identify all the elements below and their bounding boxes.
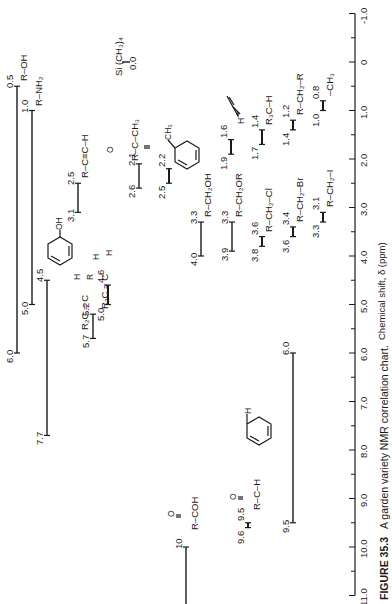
- range-high-label: 6.0: [5, 350, 15, 363]
- group-name-label: R–CH₂–Br: [295, 178, 305, 222]
- axis-tick-label: 2.0: [359, 154, 369, 167]
- range-low-label: 10: [174, 538, 184, 549]
- tms-value-label: 0.0: [128, 57, 138, 70]
- range-high-label: 3.6: [281, 239, 291, 252]
- range-low-label: 1.6: [219, 124, 229, 137]
- range-high-label: 5.0: [20, 301, 30, 314]
- ketone-label: R–C–CH₃: [130, 119, 140, 161]
- acid-label: R–COH: [190, 497, 200, 530]
- figure-caption: FIGURE 35.3A garden variety NMR correlat…: [378, 345, 390, 600]
- range-low-label: 0.8: [311, 86, 321, 99]
- range-high-label: 1.7: [250, 147, 260, 160]
- group-name-label: R–NH₂: [34, 76, 44, 106]
- axis-tick-label: 8.0: [359, 445, 369, 458]
- group-name-label: R–C≡C–H: [80, 135, 90, 179]
- range-low-label: 1.0: [20, 99, 30, 112]
- group-name-label: R–CH₂–Cl: [264, 188, 274, 232]
- range-high-label: 9.6: [236, 530, 246, 543]
- alkene2-label: R₂C = C: [100, 274, 110, 309]
- range-high-label: 9.5: [281, 520, 291, 533]
- range-low-label: 3.3: [189, 211, 199, 224]
- range-low-label: 2.2: [157, 153, 167, 166]
- alkene2-h-label: H: [105, 250, 114, 256]
- range-high-label: 3.1: [66, 209, 76, 222]
- axis-tick-label: 7.0: [359, 396, 369, 409]
- axis-tick-label: 5.0: [359, 299, 369, 312]
- alkene1-h-label: H: [73, 274, 82, 280]
- figure-caption-text: A garden variety NMR correlation chart.: [378, 345, 390, 529]
- range-high-label: 1.0: [311, 113, 321, 126]
- group-name-label: R–OH: [19, 55, 29, 81]
- range-low-label: 6.0: [281, 342, 291, 355]
- range-low-label: 0.5: [5, 75, 15, 88]
- group-name-label: –CH₃: [325, 73, 335, 96]
- alkene1-r-label: R: [86, 274, 95, 280]
- range-low-label: 2.5: [66, 172, 76, 185]
- allyl-structure-icon: [227, 96, 238, 116]
- range-low-label: 9.5: [236, 508, 246, 521]
- allyl-h-label: H: [237, 118, 246, 124]
- range-high-label: 5.0: [96, 307, 106, 320]
- ketone-o-label: O: [106, 146, 115, 153]
- range-high-label: 3.9: [220, 248, 230, 261]
- range-high-label: 5.7: [81, 335, 91, 348]
- axis-tick-label: 11.0: [359, 589, 369, 604]
- group-name-label: R₃C–H: [264, 95, 274, 125]
- group-name-label: R–CH₂OH: [203, 173, 213, 217]
- range-high-label: 1.4: [281, 133, 291, 146]
- acid-o-label: O: [167, 510, 176, 517]
- group-name-label: R–CH₂OR: [234, 173, 244, 217]
- axis-tick-label: 9.0: [359, 493, 369, 506]
- range-low-label: 4.5: [35, 269, 45, 282]
- chemical-shift-axis: [349, 14, 355, 596]
- tms-name-label: Si (CH₃)₄: [114, 37, 124, 76]
- phenol-oh-label: OH: [55, 217, 64, 230]
- alkene1-label: R₂C = C: [80, 295, 90, 330]
- range-high-label: 1.9: [219, 157, 229, 170]
- aldehyde-label: R–C–H: [252, 479, 262, 510]
- axis-tick-label: 1.0: [359, 105, 369, 118]
- range-high-label: 3.8: [250, 249, 260, 262]
- group-name-label: R–CH₂–I: [325, 170, 335, 207]
- range-low-label: 3.1: [311, 197, 321, 210]
- axis-tick-label: 6.0: [359, 348, 369, 361]
- axis-tick-label: 0: [359, 59, 369, 64]
- axis-title: Chemical shift, δ (ppm): [376, 242, 387, 340]
- aldehyde-o-label: O: [229, 493, 238, 500]
- range-low-label: 3.6: [250, 221, 260, 234]
- range-low-label: 1.2: [281, 105, 291, 118]
- axis-tick-label: 4.0: [359, 251, 369, 264]
- group-name-label: R–CH₂–R: [295, 73, 305, 115]
- benzene-h-label: H: [244, 408, 253, 414]
- axis-tick-label: -1.0: [359, 8, 369, 24]
- range-low-label: 3.4: [281, 212, 291, 225]
- toluene-ch3-label: CH₃: [164, 124, 173, 140]
- range-low-label: 3.3: [220, 211, 230, 224]
- range-high-label: 2.5: [157, 186, 167, 199]
- range-high-label: 2.6: [127, 185, 137, 198]
- range-high-label: 3.3: [311, 225, 321, 238]
- axis-tick-label: 3.0: [359, 202, 369, 215]
- alkene2-h-label: H: [92, 254, 101, 260]
- range-high-label: 4.0: [189, 253, 199, 266]
- range-high-label: 7.7: [35, 432, 45, 445]
- figure-number: FIGURE 35.3: [378, 537, 390, 600]
- range-low-label: 1.4: [250, 115, 260, 128]
- axis-tick-label: 10.0: [359, 539, 369, 558]
